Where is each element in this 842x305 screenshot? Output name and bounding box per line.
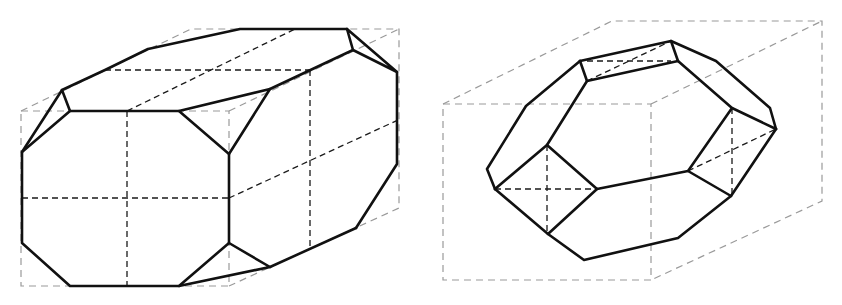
figure-canvas (0, 0, 842, 305)
right-visible-edges (487, 41, 776, 260)
right-crystal-diagram (0, 0, 842, 305)
